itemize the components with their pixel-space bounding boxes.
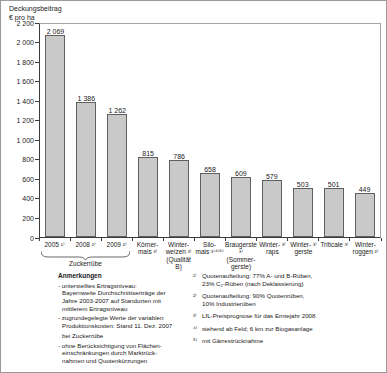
y-tick-label: 1 400: [1, 98, 34, 105]
y-tick-label: 1 200: [1, 117, 34, 124]
footnote-marker: ¹⁾: [193, 272, 202, 287]
bar-slot: 658: [195, 173, 226, 237]
bar-slot: 786: [164, 160, 195, 237]
footnote-text: LfL-Preisprognose für das Erntejahr 2008: [202, 312, 316, 320]
y-tick-label: 2 200: [1, 20, 34, 27]
y-tick-label: 800: [1, 156, 34, 163]
note-item: - zugrundegelegte Werte der variablen Pr…: [58, 314, 190, 329]
y-tick-label: 400: [1, 195, 34, 202]
bar-series: 2 0691 3861 262815786658609579503501449: [40, 24, 380, 237]
group-brace: [41, 251, 130, 260]
x-axis-label: Winter- ³⁾ raps: [257, 241, 288, 271]
bar: 1 386: [76, 102, 96, 237]
footnote: ²⁾Quotenaufteilung: 90% Quotenrüben, 10%…: [193, 292, 383, 307]
bar-slot: 1 386: [71, 102, 102, 237]
y-tick-label: 0: [1, 235, 34, 242]
footnote-marker: ²⁾: [193, 292, 202, 307]
footnote: ⁵⁾mit Gärrestrücknahme: [193, 337, 383, 345]
note-item: bei Zuckerrübe: [58, 332, 190, 340]
bar-value-label: 1 262: [109, 107, 127, 114]
plot-area: 2 0691 3861 262815786658609579503501449: [39, 23, 381, 238]
bar-value-label: 1 386: [78, 95, 96, 102]
bar-value-label: 449: [359, 186, 371, 193]
notes-left-column: Anmerkungen - unterstelltes Ertragsnivea…: [58, 272, 190, 367]
footnote-marker: ⁴⁾: [193, 325, 202, 333]
bar: 1 262: [107, 114, 127, 237]
bar-value-label: 658: [204, 166, 216, 173]
notes-heading: Anmerkungen: [58, 272, 190, 280]
bar: 815: [138, 157, 158, 237]
bar: 2 069: [45, 35, 65, 237]
y-tick-label: 600: [1, 176, 34, 183]
x-axis-label: Silo- mais ³⁾⁴⁾⁵⁾: [194, 241, 225, 271]
footnote-text: stehend ab Feld; 6 km zur Biogasanlage: [202, 325, 313, 333]
footnote-text: mit Gärrestrücknahme: [202, 337, 263, 345]
bar-value-label: 815: [142, 150, 154, 157]
bar-value-label: 579: [266, 173, 278, 180]
bar-slot: 449: [349, 193, 380, 237]
bar-slot: 609: [225, 177, 256, 237]
footnote-text: Quotenaufteilung: 90% Quotenrüben, 10% I…: [202, 292, 305, 307]
bar-slot: 501: [318, 188, 349, 237]
x-axis-label: Winter- weizen ³⁾ (Qualität B): [163, 241, 194, 271]
footnote: ¹⁾Quotenaufteilung: 77% A- und B-Rüben, …: [193, 272, 383, 287]
footnote: ³⁾LfL-Preisprognose für das Erntejahr 20…: [193, 312, 383, 320]
footnotes-column: ¹⁾Quotenaufteilung: 77% A- und B-Rüben, …: [193, 272, 383, 350]
note-item: - ohne Berücksichtigung von Flächen- ein…: [58, 342, 190, 365]
footnote-marker: ³⁾: [193, 312, 202, 320]
x-axis-label: Winter- ³⁾ gerste: [288, 241, 319, 271]
bar: 579: [262, 180, 282, 237]
footnote-text: Quotenaufteilung: 77% A- und B-Rüben, 23…: [202, 272, 312, 287]
bar: 786: [169, 160, 189, 237]
y-tick-label: 1 000: [1, 137, 34, 144]
footnote: ⁴⁾stehend ab Feld; 6 km zur Biogasanlage: [193, 325, 383, 333]
bar: 501: [324, 188, 344, 237]
note-item: - unterstelltes Ertragsniveau: Bayernwei…: [58, 282, 190, 312]
bar: 609: [231, 177, 251, 237]
bar-value-label: 786: [173, 153, 185, 160]
y-tick-label: 1 600: [1, 78, 34, 85]
chart-title-text: Deckungsbeitrag: [9, 4, 62, 13]
bar: 503: [293, 188, 313, 237]
chart-page: Deckungsbeitrag € pro ha 02004006008001 …: [0, 0, 387, 373]
y-tick-label: 2 000: [1, 39, 34, 46]
bar-slot: 579: [256, 180, 287, 237]
bar-value-label: 503: [297, 181, 309, 188]
x-axis-label: Braugerste ³⁾ (Sommer- gerste): [225, 241, 257, 271]
bar-slot: 2 069: [40, 35, 71, 237]
y-tick-label: 200: [1, 215, 34, 222]
bar-value-label: 609: [235, 170, 247, 177]
x-axis-label: Körner- mais ³⁾: [132, 241, 163, 271]
x-axis-label: Triticale ³⁾: [319, 241, 350, 271]
group-brace-label: Zuckerrübe: [41, 260, 130, 267]
x-axis-label: Winter- roggen ³⁾: [350, 241, 381, 271]
bar: 449: [355, 193, 375, 237]
bar-value-label: 2 069: [47, 28, 65, 35]
bar-value-label: 501: [328, 181, 340, 188]
bar: 658: [200, 173, 220, 237]
bar-slot: 815: [133, 157, 164, 237]
bar-slot: 1 262: [102, 114, 133, 237]
y-tick-label: 1 800: [1, 59, 34, 66]
footnote-marker: ⁵⁾: [193, 337, 202, 345]
notes-list: - unterstelltes Ertragsniveau: Bayernwei…: [58, 282, 190, 365]
bar-slot: 503: [287, 188, 318, 237]
